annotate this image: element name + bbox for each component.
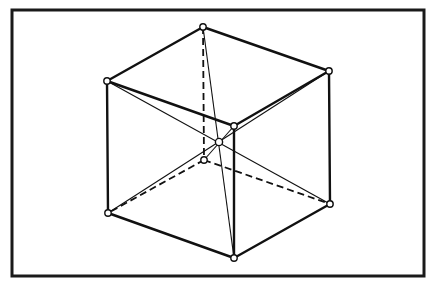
edge-top-right-bottom-right bbox=[329, 71, 330, 204]
edge-top-right-top-front bbox=[234, 71, 329, 126]
edge-top-back-top-left bbox=[107, 27, 203, 81]
edge-top-left-top-front bbox=[107, 81, 234, 126]
edge-bottom-left-bottom-front bbox=[108, 213, 234, 258]
vertex-top-back bbox=[200, 24, 206, 30]
vertex-top-left bbox=[104, 78, 110, 84]
edge-top-back-top-right bbox=[203, 27, 329, 71]
vertex-top-right bbox=[326, 68, 332, 74]
hidden-edge-bottom-back-bottom-right bbox=[204, 160, 330, 204]
cube-diagonals-diagram bbox=[0, 0, 431, 292]
vertex-center bbox=[215, 138, 222, 145]
vertex-top-front bbox=[231, 123, 237, 129]
edge-top-left-bottom-left bbox=[107, 81, 108, 213]
edge-bottom-right-bottom-front bbox=[234, 204, 330, 258]
vertex-bottom-right bbox=[327, 201, 333, 207]
vertex-bottom-back bbox=[201, 157, 207, 163]
vertex-bottom-front bbox=[231, 255, 237, 261]
vertex-bottom-left bbox=[105, 210, 111, 216]
hidden-edge-top-back-bottom-back bbox=[203, 27, 204, 160]
hidden-edge-bottom-back-bottom-left bbox=[108, 160, 204, 213]
